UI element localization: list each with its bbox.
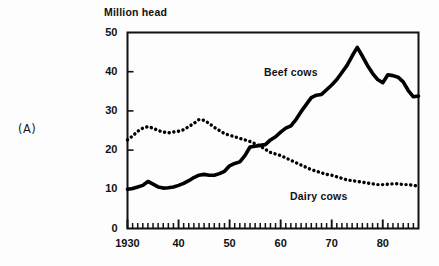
chart-canvas <box>0 0 439 266</box>
y-axis-tick-label: 20 <box>96 143 118 155</box>
dairy-cows-label: Dairy cows <box>290 190 347 202</box>
y-axis-tick-label: 30 <box>96 104 118 116</box>
y-axis-tick-label: 0 <box>96 222 118 234</box>
plot-frame <box>128 33 419 229</box>
dairy-cows-series <box>128 120 419 187</box>
figure-panel: (A) Million head Beef cows Dairy cows 01… <box>0 0 439 266</box>
y-axis-tick-label: 40 <box>96 65 118 77</box>
beef-cows-label: Beef cows <box>264 66 318 78</box>
y-axis-tick-label: 50 <box>96 26 118 38</box>
y-axis-tick-label: 10 <box>96 182 118 194</box>
x-axis-tick-label: 80 <box>353 237 413 249</box>
